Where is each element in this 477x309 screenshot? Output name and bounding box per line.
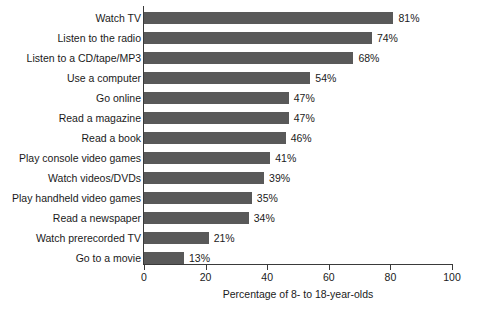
horizontal-bar-chart: Watch TV81%Listen to the radio74%Listen … — [0, 0, 477, 309]
bar-category-label: Use a computer — [67, 70, 141, 90]
bar-value-label: 54% — [315, 71, 336, 85]
bar-rows: Watch TV81%Listen to the radio74%Listen … — [0, 10, 477, 270]
bar-track: 41% — [144, 152, 452, 164]
bar-value-label: 39% — [269, 171, 290, 185]
bar-value-label: 81% — [398, 11, 419, 25]
bar — [144, 212, 249, 224]
bar-category-label: Listen to a CD/tape/MP3 — [27, 50, 141, 70]
bar — [144, 172, 264, 184]
bar-track: 39% — [144, 172, 452, 184]
bar-value-label: 47% — [294, 91, 315, 105]
bar-row: Watch TV81% — [0, 10, 477, 30]
bar-value-label: 34% — [254, 211, 275, 225]
bar-category-label: Read a newspaper — [53, 210, 141, 230]
bar-category-label: Go to a movie — [76, 250, 141, 270]
bar — [144, 12, 393, 24]
bar-track: 47% — [144, 92, 452, 104]
bar-value-label: 13% — [189, 251, 210, 265]
bar-track: 21% — [144, 232, 452, 244]
bar-track: 35% — [144, 192, 452, 204]
bar-row: Play console video games41% — [0, 150, 477, 170]
bar-value-label: 41% — [275, 151, 296, 165]
bar — [144, 72, 310, 84]
bar-category-label: Play console video games — [19, 150, 141, 170]
bar-track: 68% — [144, 52, 452, 64]
bar-category-label: Watch prerecorded TV — [36, 230, 141, 250]
bar-track: 81% — [144, 12, 452, 24]
x-tick-mark — [206, 265, 207, 270]
x-tick-label: 80 — [385, 271, 397, 284]
bar-value-label: 68% — [358, 51, 379, 65]
bar-category-label: Read a magazine — [59, 110, 141, 130]
bar-value-label: 74% — [377, 31, 398, 45]
bar — [144, 112, 289, 124]
bar-value-label: 46% — [291, 131, 312, 145]
bar-track: 74% — [144, 32, 452, 44]
bar-track: 47% — [144, 112, 452, 124]
bar-row: Use a computer54% — [0, 70, 477, 90]
bar-category-label: Listen to the radio — [58, 30, 141, 50]
x-tick-mark — [144, 265, 145, 270]
bar — [144, 232, 209, 244]
bar — [144, 252, 184, 264]
x-tick-mark — [452, 265, 453, 270]
bar-value-label: 47% — [294, 111, 315, 125]
bar-row: Read a book46% — [0, 130, 477, 150]
x-tick-label: 100 — [443, 271, 461, 284]
bar-row: Listen to the radio74% — [0, 30, 477, 50]
bar-row: Listen to a CD/tape/MP368% — [0, 50, 477, 70]
x-tick-mark — [390, 265, 391, 270]
bar-row: Watch videos/DVDs39% — [0, 170, 477, 190]
bar-value-label: 35% — [257, 191, 278, 205]
bar-row: Read a newspaper34% — [0, 210, 477, 230]
bar — [144, 92, 289, 104]
x-tick-label: 60 — [323, 271, 335, 284]
bar-category-label: Read a book — [81, 130, 141, 150]
x-tick-mark — [329, 265, 330, 270]
bar — [144, 52, 353, 64]
bar-track: 54% — [144, 72, 452, 84]
bar-track: 13% — [144, 252, 452, 264]
bar-row: Go online47% — [0, 90, 477, 110]
bar-value-label: 21% — [214, 231, 235, 245]
bar-category-label: Play handheld video games — [12, 190, 141, 210]
bar — [144, 32, 372, 44]
bar — [144, 152, 270, 164]
bar — [144, 192, 252, 204]
bar-category-label: Watch videos/DVDs — [48, 170, 141, 190]
x-tick-label: 40 — [261, 271, 273, 284]
bar-row: Play handheld video games35% — [0, 190, 477, 210]
bar — [144, 132, 286, 144]
bar-category-label: Go online — [96, 90, 141, 110]
x-tick-mark — [267, 265, 268, 270]
bar-track: 46% — [144, 132, 452, 144]
x-axis-title: Percentage of 8- to 18-year-olds — [144, 288, 452, 301]
x-tick-label: 0 — [141, 271, 147, 284]
bar-row: Read a magazine47% — [0, 110, 477, 130]
bar-row: Watch prerecorded TV21% — [0, 230, 477, 250]
bar-category-label: Watch TV — [95, 10, 141, 30]
x-tick-label: 20 — [200, 271, 212, 284]
bar-track: 34% — [144, 212, 452, 224]
